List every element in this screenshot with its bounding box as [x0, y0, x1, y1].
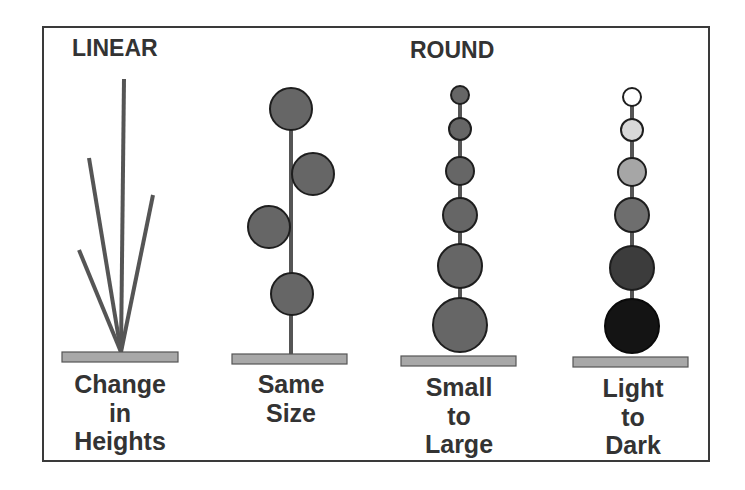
base-bar-1 — [62, 352, 178, 362]
linear-stems-figure — [62, 79, 178, 362]
base-bar-2 — [232, 354, 347, 364]
light-to-dark-figure — [573, 88, 688, 367]
small-to-large-figure — [401, 86, 516, 366]
label-light-to-dark: Light to Dark — [553, 374, 713, 460]
base-bar-3 — [401, 356, 516, 366]
label-small-to-large: Small to Large — [379, 373, 539, 459]
base-bar-4 — [573, 357, 688, 367]
same-size-figure — [232, 88, 347, 364]
label-change-in-heights: Change in Heights — [40, 370, 200, 456]
label-same-size: Same Size — [211, 370, 371, 427]
